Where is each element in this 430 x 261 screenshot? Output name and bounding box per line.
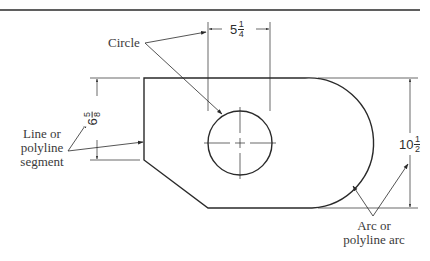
- dimension-text-10-1-2: 10 1 2: [398, 135, 421, 154]
- line-segment-label-1: Line or: [14, 127, 70, 141]
- arc-callout: Arc or polyline arc: [334, 219, 414, 247]
- circle-callout: Circle: [108, 36, 140, 50]
- line-segment-leaders: [68, 123, 143, 151]
- line-segment-label-2: polyline: [14, 141, 70, 155]
- dimension-text-6-5-8: 6 5 8: [83, 110, 102, 126]
- arc-label-1: Arc or: [334, 219, 414, 233]
- center-mark-icon: [204, 107, 276, 179]
- circle-leaders: [145, 32, 222, 114]
- circle-label: Circle: [108, 35, 140, 50]
- dimension-text-5-1-4: 5 1 4: [229, 20, 245, 39]
- line-segment-label-3: segment: [14, 155, 70, 169]
- arc-label-2: polyline arc: [334, 233, 414, 247]
- line-segment-callout: Line or polyline segment: [14, 127, 70, 169]
